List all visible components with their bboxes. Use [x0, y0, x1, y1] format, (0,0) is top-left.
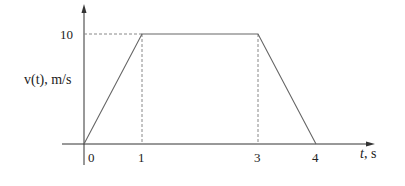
x-tick-1: 1 — [138, 150, 145, 165]
velocity-time-chart: 10 0 1 3 4 v(t), m/s t, s — [0, 0, 405, 186]
x-tick-3: 3 — [254, 150, 261, 165]
x-tick-4: 4 — [312, 150, 319, 165]
x-axis-unit: , s — [364, 146, 376, 161]
y-axis-arrow-icon — [82, 4, 87, 13]
x-tick-0: 0 — [88, 150, 95, 165]
y-axis-label: v(t), m/s — [24, 72, 71, 88]
x-axis-label: t, s — [360, 146, 376, 161]
velocity-curve — [84, 34, 316, 144]
y-tick-10: 10 — [60, 27, 73, 42]
